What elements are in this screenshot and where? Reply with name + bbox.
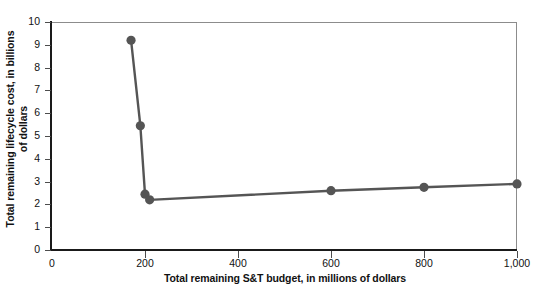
data-point-marker — [512, 179, 521, 188]
data-point-marker — [145, 195, 154, 204]
data-point-marker — [126, 36, 135, 45]
line-chart: Total remaining lifecycle cost, in billi… — [0, 0, 538, 290]
series-line — [131, 40, 517, 200]
series-markers — [126, 36, 521, 205]
data-point-marker — [136, 121, 145, 130]
data-point-marker — [419, 183, 428, 192]
x-axis-title: Total remaining S&T budget, in millions … — [52, 272, 518, 284]
series-layer — [0, 0, 538, 290]
data-point-marker — [326, 186, 335, 195]
